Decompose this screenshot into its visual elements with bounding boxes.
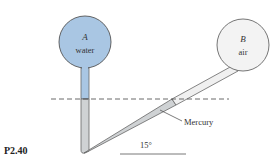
mercury-tube-inclined bbox=[84, 99, 176, 153]
mercury-tube-vertical bbox=[81, 99, 89, 153]
mercury-label: Mercury bbox=[184, 117, 214, 127]
problem-label: P2.40 bbox=[4, 145, 28, 156]
tank-b-letter: B bbox=[240, 34, 246, 44]
tank-a-letter: A bbox=[81, 32, 88, 42]
tank-a-fluid-label: water bbox=[76, 45, 95, 55]
water-tube-segment bbox=[81, 68, 89, 99]
tank-b-fluid-label: air bbox=[239, 47, 248, 57]
mercury-leader-line bbox=[160, 110, 182, 121]
tank-b bbox=[217, 19, 269, 71]
angle-label: 15° bbox=[140, 140, 152, 150]
manometer-diagram: A water B air Mercury 15° P2.40 bbox=[0, 0, 280, 163]
tank-a bbox=[59, 16, 111, 68]
